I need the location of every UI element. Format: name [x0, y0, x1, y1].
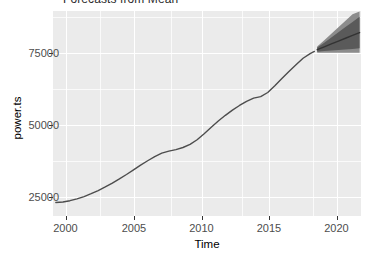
plot-series-layer [53, 11, 361, 216]
x-tick-label: 2020 [317, 222, 357, 234]
plot-panel [53, 11, 361, 216]
y-tick-label: 25000 [28, 191, 59, 203]
x-tick-label: 2005 [114, 222, 154, 234]
x-tick-mark [337, 216, 338, 220]
historical-series-line [56, 51, 315, 202]
y-tick-label: 75000 [28, 47, 59, 59]
x-tick-label: 2000 [46, 222, 86, 234]
forecast-chart: Forecasts from Mean power.ts 75 [0, 0, 368, 259]
x-tick-mark [269, 216, 270, 220]
x-axis-title: Time [53, 238, 361, 250]
x-tick-mark [66, 216, 67, 220]
x-tick-mark [134, 216, 135, 220]
y-tick-label: 50000 [28, 119, 59, 131]
y-axis-title: power.ts [10, 10, 24, 226]
x-tick-label: 2010 [182, 222, 222, 234]
x-tick-label: 2015 [249, 222, 289, 234]
x-tick-mark [202, 216, 203, 220]
chart-title: Forecasts from Mean [63, 0, 178, 6]
